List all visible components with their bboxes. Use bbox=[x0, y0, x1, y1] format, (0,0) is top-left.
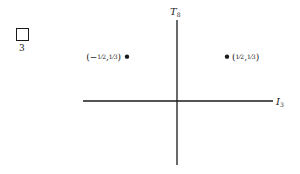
weight-points: (−1⁄2,1⁄3)(1⁄2,1⁄3)(0,−2⁄3) bbox=[86, 52, 259, 174]
weight-point-dot bbox=[125, 54, 129, 58]
weight-point-dot bbox=[225, 54, 229, 58]
i3-axis-label: I3 bbox=[275, 96, 284, 108]
weight-diagram: I3 T8 (−1⁄2,1⁄3)(1⁄2,1⁄3)(0,−2⁄3) bbox=[0, 0, 300, 174]
weight-point-label: (−1⁄2,1⁄3) bbox=[86, 52, 121, 62]
t8-axis-label: T8 bbox=[170, 6, 181, 18]
weight-point-label: (1⁄2,1⁄3) bbox=[232, 52, 259, 62]
